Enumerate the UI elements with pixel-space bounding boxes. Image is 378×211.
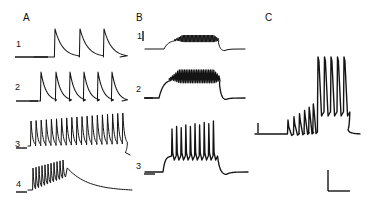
trace-label-a1: 1: [16, 40, 21, 49]
traces-canvas: [0, 0, 378, 211]
trace-c: [255, 57, 360, 136]
trace-a2: [30, 72, 128, 101]
panel-letter-a: A: [23, 13, 30, 23]
panel-letter-b: B: [136, 13, 143, 23]
trace-label-a2: 2: [15, 83, 20, 92]
trace-a4: [28, 160, 132, 190]
panel-letter-c: C: [265, 13, 272, 23]
trace-a3: [28, 113, 130, 155]
trace-label-a4: 4: [16, 180, 21, 189]
trace-label-b1: 1: [137, 32, 142, 41]
trace-b1: [145, 35, 245, 51]
trace-label-b3: 3: [136, 162, 141, 171]
trace-label-a3: 3: [15, 140, 20, 149]
electrophysiology-figure: A B C 1 2 3 4 1 2 3: [0, 0, 378, 211]
trace-a1: [34, 29, 127, 57]
trace-b3: [145, 121, 248, 174]
trace-b2: [145, 70, 245, 99]
trace-label-b2: 2: [136, 85, 141, 94]
